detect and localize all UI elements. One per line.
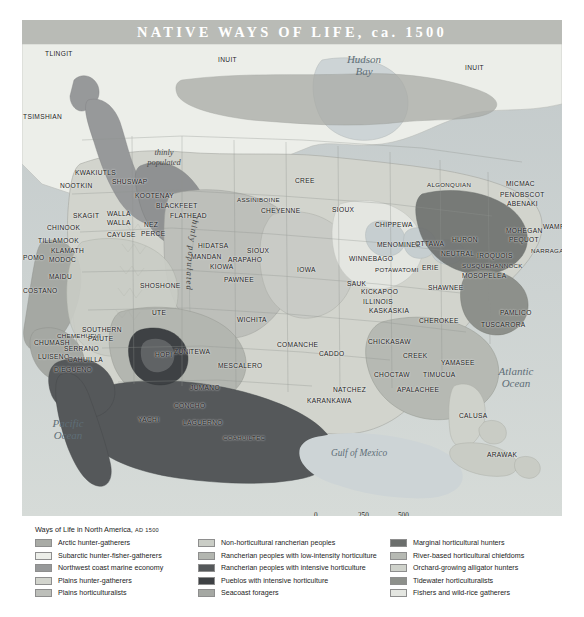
legend-item: Plains horticulturalists — [35, 587, 163, 599]
legend-item: Rancherian peoples with intensive hortic… — [198, 562, 377, 574]
legend-title-year: 1500 — [145, 527, 159, 533]
legend-item: Arctic hunter-gatherers — [35, 537, 163, 549]
legend-swatch — [390, 552, 407, 560]
legend-swatch — [35, 589, 52, 597]
legend-swatch — [390, 539, 407, 547]
scale-miles-end: 500 miles — [398, 512, 426, 516]
legend-label: Seacoast foragers — [221, 589, 279, 597]
legend-column-one: Arctic hunter-gatherersSubarctic hunter-… — [35, 537, 163, 600]
legend-label: River-based horticultural chiefdoms — [413, 552, 524, 560]
legend-label: Non-horticultural rancherian peoples — [221, 539, 335, 547]
legend-swatch — [198, 564, 215, 572]
map-legend: Ways of Life in North America, AD 1500 A… — [28, 522, 462, 600]
legend-item: Plains hunter-gatherers — [35, 575, 163, 587]
legend-label: Northwest coast marine economy — [58, 564, 163, 572]
legend-swatch — [390, 564, 407, 572]
legend-item: River-based horticultural chiefdoms — [390, 550, 524, 562]
map-page: NATIVE WAYS OF LIFE, ca. 1500 — [0, 0, 584, 617]
legend-swatch — [35, 552, 52, 560]
scale-miles-start: 0 — [314, 512, 318, 516]
legend-label: Fishers and wild-rice gatherers — [413, 589, 510, 597]
legend-swatch — [198, 589, 215, 597]
scale-miles-mid: 250 — [358, 512, 369, 516]
legend-swatch — [35, 577, 52, 585]
legend-label: Marginal horticultural hunters — [413, 539, 504, 547]
legend-swatch — [198, 577, 215, 585]
legend-title: Ways of Life in North America, AD 1500 — [35, 525, 159, 534]
legend-item: Marginal horticultural hunters — [390, 537, 524, 549]
legend-item: Orchard-growing alligator hunters — [390, 562, 524, 574]
map-title-banner: NATIVE WAYS OF LIFE, ca. 1500 — [22, 20, 562, 44]
legend-item: Rancherian peoples with low-intensity ho… — [198, 550, 377, 562]
map-scale-bar: 0 250 500 miles 0 250 500 kilometers — [314, 512, 426, 516]
legend-item: Non-horticultural rancherian peoples — [198, 537, 377, 549]
legend-label: Tidewater horticulturalists — [413, 577, 493, 585]
scale-miles-numbers: 0 250 500 miles — [314, 512, 426, 516]
legend-swatch — [35, 539, 52, 547]
legend-label: Rancherian peoples with low-intensity ho… — [221, 552, 377, 560]
legend-label: Plains hunter-gatherers — [58, 577, 132, 585]
legend-label: Arctic hunter-gatherers — [58, 539, 130, 547]
legend-column-two: Non-horticultural rancherian peoplesRanc… — [198, 537, 377, 600]
legend-swatch — [198, 539, 215, 547]
legend-item: Subarctic hunter-fisher-gatherers — [35, 550, 163, 562]
legend-label: Plains horticulturalists — [58, 589, 127, 597]
page-title: NATIVE WAYS OF LIFE, ca. 1500 — [137, 24, 447, 41]
map-graphic: thinly populated — [22, 44, 562, 516]
legend-item: Fishers and wild-rice gatherers — [390, 587, 524, 599]
legend-swatch — [390, 577, 407, 585]
map-figure: thinly populated Hudson Bay Pacific Ocea… — [22, 44, 562, 516]
legend-item: Northwest coast marine economy — [35, 562, 163, 574]
legend-label: Pueblos with intensive horticulture — [221, 577, 328, 585]
legend-title-main: Ways of Life in North America, — [35, 525, 133, 534]
legend-item: Pueblos with intensive horticulture — [198, 575, 377, 587]
legend-column-three: Marginal horticultural huntersRiver-base… — [390, 537, 524, 600]
legend-title-era: AD — [135, 527, 143, 533]
legend-item: Tidewater horticulturalists — [390, 575, 524, 587]
legend-swatch — [35, 564, 52, 572]
legend-label: Subarctic hunter-fisher-gatherers — [58, 552, 162, 560]
legend-label: Orchard-growing alligator hunters — [413, 564, 518, 572]
legend-swatch — [390, 589, 407, 597]
legend-swatch — [198, 552, 215, 560]
legend-item: Seacoast foragers — [198, 587, 377, 599]
legend-label: Rancherian peoples with intensive hortic… — [221, 564, 366, 572]
